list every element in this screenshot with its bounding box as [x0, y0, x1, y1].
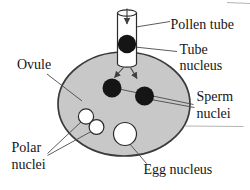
polar-nuclei-label-line2: nuclei: [12, 157, 46, 172]
sperm-nuclei-label-line1: Sperm: [197, 89, 234, 104]
fertilization-diagram: Pollen tube Tube nucleus Ovule Sperm nuc…: [0, 0, 250, 190]
tube-nucleus-shape: [118, 35, 136, 53]
tube-nucleus-label-line2: nucleus: [180, 58, 223, 73]
egg-nucleus-shape: [114, 123, 137, 146]
pollen-tube-label: Pollen tube: [171, 17, 234, 32]
sperm-nucleus-left-shape: [103, 79, 122, 98]
sperm-nucleus-right-shape: [135, 87, 154, 106]
faint-rule-line: [185, 126, 244, 127]
fertilization-diagram-canvas: Pollen tube Tube nucleus Ovule Sperm nuc…: [0, 0, 250, 190]
sperm-nuclei-label-line2: nuclei: [197, 106, 231, 121]
egg-nucleus-label: Egg nucleus: [144, 162, 213, 177]
tube-nucleus-label-line1: Tube: [180, 42, 208, 57]
polar-nucleus-lower-shape: [89, 120, 104, 135]
polar-nuclei-label-line1: Polar: [12, 140, 42, 155]
ovule-label: Ovule: [17, 57, 51, 72]
